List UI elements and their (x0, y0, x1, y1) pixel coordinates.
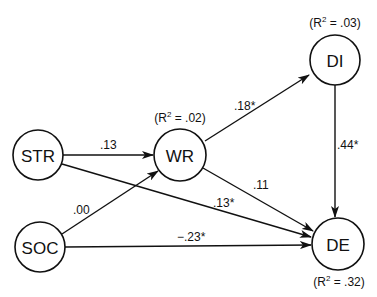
edge-wr-di (205, 75, 309, 141)
node-label: WR (166, 147, 194, 166)
coef-wr-de: .11 (253, 178, 269, 192)
node-di: DI (310, 35, 360, 85)
node-label: DE (326, 236, 350, 255)
coef-str-de: .13* (213, 196, 235, 210)
node-label: SOC (22, 239, 59, 258)
node-str: STR (13, 130, 63, 180)
node-soc: SOC (15, 222, 65, 272)
r2-di: (R2 = .03) (309, 15, 360, 30)
r2-de: (R2 = .32) (313, 274, 364, 289)
node-wr: WR (154, 129, 206, 181)
node-de: DE (312, 218, 364, 270)
coef-soc-de: −.23* (177, 230, 206, 244)
coef-di-de: .44* (337, 138, 359, 152)
node-label: STR (21, 147, 55, 166)
coef-wr-di: .18* (234, 99, 256, 113)
edge-soc-de (65, 245, 311, 247)
r2-wr: (R2 = .02) (154, 110, 205, 125)
node-label: DI (327, 52, 344, 71)
coef-soc-wr: .00 (73, 203, 90, 217)
path-diagram: .13 .00 .18* .11 .13* −.23* .44* STR WR … (0, 0, 377, 297)
coef-str-wr: .13 (100, 138, 117, 152)
